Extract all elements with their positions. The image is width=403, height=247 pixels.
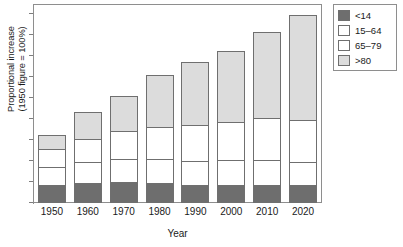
bar-segment (217, 160, 245, 185)
bar-segment (181, 161, 209, 186)
bar-segment (38, 135, 66, 149)
bar-segment (217, 122, 245, 160)
bar-1980 (146, 75, 174, 203)
y-axis-label: Proportional increase (1950 figure = 100… (6, 0, 32, 149)
legend-swatch-15-64 (338, 25, 350, 36)
x-axis-tick-label: 2020 (280, 206, 326, 217)
bar-segment (289, 185, 317, 203)
bar-segment (110, 182, 138, 203)
legend-item-15-64: 15–64 (338, 23, 393, 37)
legend-label-over80: >80 (355, 55, 371, 66)
y-axis-label-line2: (1950 figure = 100%) (17, 0, 28, 149)
bar-segment (110, 96, 138, 131)
bar-segment (74, 112, 102, 139)
bar-segment (253, 160, 281, 185)
bar-segment (289, 162, 317, 185)
bar-2020 (289, 15, 317, 203)
bar-segment (217, 51, 245, 121)
bar-segment (181, 62, 209, 125)
bar-2010 (253, 32, 281, 203)
legend-label-under14: <14 (355, 10, 371, 21)
bar-segment (74, 162, 102, 182)
legend-swatch-65-79 (338, 40, 350, 51)
bar-1970 (110, 96, 138, 203)
bar-segment (110, 131, 138, 160)
legend-item-65-79: 65–79 (338, 38, 393, 52)
bar-segment (110, 159, 138, 182)
bar-segment (74, 139, 102, 162)
bar-2000 (217, 51, 245, 203)
bar-segment (146, 127, 174, 160)
bar-segment (74, 183, 102, 203)
bar-segment (253, 118, 281, 160)
bar-1960 (74, 112, 102, 203)
bar-segment (181, 125, 209, 161)
legend-swatch-under14 (338, 10, 350, 21)
legend-item-over80: >80 (338, 53, 393, 67)
bars-container (34, 5, 321, 203)
bar-segment (253, 185, 281, 203)
legend-item-under14: <14 (338, 8, 393, 22)
legend-swatch-over80 (338, 55, 350, 66)
bar-segment (217, 185, 245, 203)
bar-segment (38, 149, 66, 167)
legend-label-65-79: 65–79 (355, 40, 381, 51)
bar-segment (146, 183, 174, 203)
legend-label-15-64: 15–64 (355, 25, 381, 36)
bar-segment (181, 185, 209, 203)
bar-segment (146, 75, 174, 126)
bar-chart: Proportional increase (1950 figure = 100… (0, 0, 403, 247)
bar-segment (289, 120, 317, 162)
bar-1990 (181, 62, 209, 203)
bar-1950 (38, 135, 66, 203)
bar-segment (38, 167, 66, 185)
bar-segment (38, 185, 66, 203)
legend: <14 15–64 65–79 >80 (333, 4, 397, 71)
bar-segment (146, 159, 174, 182)
bar-segment (289, 15, 317, 119)
y-axis-label-line1: Proportional increase (6, 0, 17, 149)
x-axis-label: Year (33, 228, 322, 239)
bar-segment (253, 32, 281, 118)
